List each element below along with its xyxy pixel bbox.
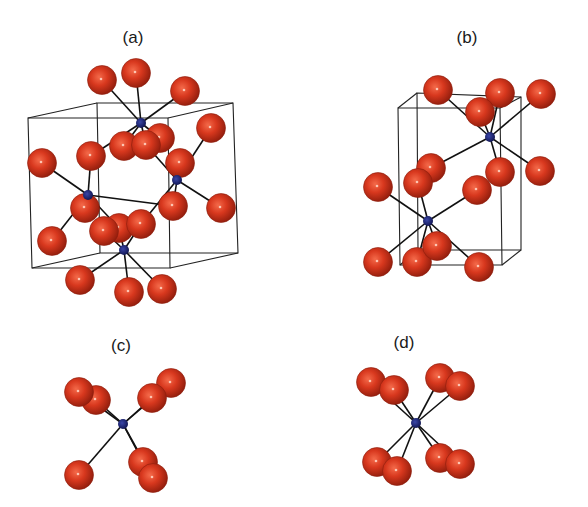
oxygen-atom (380, 376, 409, 405)
oxygen-atom (526, 157, 555, 186)
crystal-structure-figure (0, 0, 588, 507)
panel-c-coordination (65, 369, 186, 493)
oxygen-atom (65, 461, 94, 490)
oxygen-atom (38, 227, 67, 256)
oxygen-atom (115, 278, 144, 307)
oxygen-atom (466, 98, 495, 127)
metal-atom (172, 175, 182, 185)
metal-atoms (118, 419, 128, 429)
oxygen-atoms (28, 59, 236, 307)
metal-atom (136, 118, 146, 128)
oxygen-atom (77, 142, 106, 171)
oxygen-atom (424, 76, 453, 105)
panel-a-label: (a) (123, 28, 144, 48)
panel-d-label: (d) (394, 333, 415, 353)
oxygen-atom (139, 464, 168, 493)
oxygen-atom (383, 457, 412, 486)
oxygen-atom (88, 66, 117, 95)
metal-atom (119, 245, 129, 255)
oxygen-atom (66, 266, 95, 295)
oxygen-atom (527, 80, 556, 109)
metal-atom (83, 190, 93, 200)
bonds (378, 90, 541, 267)
oxygen-atom (197, 114, 226, 143)
oxygen-atom (446, 372, 475, 401)
panel-c-label: (c) (111, 336, 131, 356)
oxygen-atom (28, 149, 57, 178)
oxygen-atom (166, 149, 195, 178)
panel-a-unit-cell (28, 59, 239, 307)
oxygen-atom (423, 232, 452, 261)
oxygen-atom (364, 173, 393, 202)
oxygen-atom (159, 192, 188, 221)
oxygen-atom (138, 384, 167, 413)
oxygen-atom (148, 275, 177, 304)
metal-atom (118, 419, 128, 429)
oxygen-atom (364, 248, 393, 277)
oxygen-atom (207, 194, 236, 223)
metal-atoms (411, 418, 421, 428)
metal-atom (411, 418, 421, 428)
oxygen-atom (463, 176, 492, 205)
panel-b-label: (b) (457, 28, 478, 48)
panel-b-unit-cell (364, 76, 556, 282)
metal-atom (423, 216, 433, 226)
oxygen-atom (90, 217, 119, 246)
oxygen-atom (122, 59, 151, 88)
oxygen-atom (171, 77, 200, 106)
oxygen-atom (127, 210, 156, 239)
oxygen-atom (465, 253, 494, 282)
metal-atom (485, 132, 495, 142)
panel-d-coordination (357, 364, 475, 486)
oxygen-atom (65, 378, 94, 407)
oxygen-atom (132, 131, 161, 160)
oxygen-atom (486, 158, 515, 187)
oxygen-atom (446, 450, 475, 479)
bonds (42, 73, 221, 292)
oxygen-atoms (65, 369, 186, 493)
oxygen-atom (404, 169, 433, 198)
